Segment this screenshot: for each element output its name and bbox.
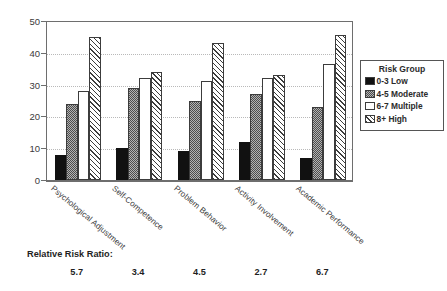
- x-axis-category-label: Academic Performance: [295, 184, 367, 246]
- legend-swatch-icon: [365, 115, 375, 123]
- x-axis-category-label: Activity Involvement: [233, 184, 295, 238]
- bar[interactable]: [273, 75, 285, 180]
- bar[interactable]: [212, 43, 224, 180]
- bar[interactable]: [89, 37, 101, 180]
- bar[interactable]: [300, 158, 312, 180]
- bar[interactable]: [78, 91, 90, 180]
- legend-item-label: 0-3 Low: [377, 76, 408, 86]
- bar-group: [178, 22, 224, 180]
- legend-item-label: 4-5 Moderate: [377, 89, 429, 99]
- bar[interactable]: [323, 64, 335, 180]
- relative-risk-ratio-value: 3.4: [132, 267, 145, 277]
- y-axis: 01020304050: [0, 0, 40, 291]
- y-axis-tick-label: 20: [29, 111, 40, 122]
- legend-swatch-icon: [365, 90, 375, 98]
- legend-item-label: 6-7 Multiple: [377, 101, 423, 111]
- y-axis-tick-label: 30: [29, 79, 40, 90]
- bar-group: [239, 22, 285, 180]
- bar-group: [116, 22, 162, 180]
- y-axis-tick-label: 10: [29, 143, 40, 154]
- relative-risk-ratio-value: 4.5: [193, 267, 206, 277]
- y-axis-tick-label: 40: [29, 47, 40, 58]
- legend-swatch-icon: [365, 102, 375, 110]
- relative-risk-ratio-label: Relative Risk Ratio:: [27, 249, 113, 259]
- bar[interactable]: [128, 88, 140, 180]
- bar[interactable]: [201, 81, 213, 180]
- x-axis-baseline: [46, 180, 353, 182]
- x-axis-category-label: Problem Behavior: [172, 184, 228, 233]
- legend-item[interactable]: 4-5 Moderate: [365, 89, 439, 99]
- legend-rows: 0-3 Low4-5 Moderate6-7 Multiple8+ High: [365, 76, 439, 124]
- legend-title: Risk Group: [365, 64, 439, 74]
- bar[interactable]: [312, 107, 324, 180]
- bar[interactable]: [178, 151, 190, 180]
- y-axis-tick-label: 0: [35, 175, 40, 186]
- bar[interactable]: [55, 155, 67, 180]
- bar-group: [55, 22, 101, 180]
- bar[interactable]: [335, 35, 347, 180]
- x-axis-category-label: Self-Competence: [110, 184, 165, 232]
- bar[interactable]: [239, 142, 251, 180]
- legend-item[interactable]: 6-7 Multiple: [365, 101, 439, 111]
- legend[interactable]: Risk Group 0-3 Low4-5 Moderate6-7 Multip…: [360, 60, 444, 131]
- y-axis-tick-label: 50: [29, 16, 40, 27]
- relative-risk-ratio-value: 5.7: [70, 267, 83, 277]
- legend-item[interactable]: 8+ High: [365, 114, 439, 124]
- plot-area: [47, 22, 352, 180]
- legend-item-label: 8+ High: [377, 114, 407, 124]
- bar[interactable]: [66, 104, 78, 180]
- bar[interactable]: [250, 94, 262, 180]
- plot-frame: [46, 21, 353, 180]
- bar[interactable]: [151, 72, 163, 180]
- bar[interactable]: [116, 148, 128, 180]
- relative-risk-ratio-value: 2.7: [255, 267, 268, 277]
- bar[interactable]: [139, 78, 151, 180]
- bar[interactable]: [189, 101, 201, 181]
- legend-swatch-icon: [365, 77, 375, 85]
- bar-group: [300, 22, 346, 180]
- chart-figure: 01020304050 Psychological AdjustmentSelf…: [0, 0, 447, 291]
- relative-risk-ratio-value: 6.7: [316, 267, 329, 277]
- bar[interactable]: [262, 78, 274, 180]
- x-axis-category-label: Psychological Adjustment: [49, 184, 127, 251]
- legend-item[interactable]: 0-3 Low: [365, 76, 439, 86]
